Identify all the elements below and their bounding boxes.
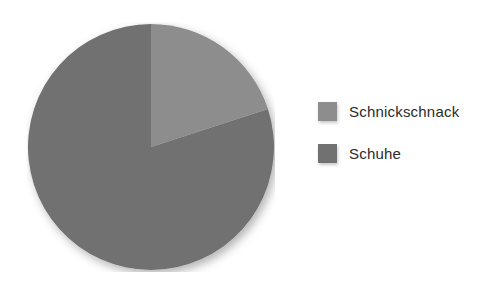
legend-label-schnickschnack: Schnickschnack bbox=[349, 103, 459, 120]
legend-swatch-schuhe bbox=[318, 144, 337, 163]
pie-graphic bbox=[27, 22, 275, 272]
legend-label-schuhe: Schuhe bbox=[349, 145, 401, 162]
pie-chart: Schnickschnack Schuhe bbox=[0, 0, 490, 297]
legend-swatch-schnickschnack bbox=[318, 102, 337, 121]
pie-slices-group bbox=[28, 24, 274, 270]
legend-item-schnickschnack[interactable]: Schnickschnack bbox=[316, 90, 486, 132]
chart-legend: Schnickschnack Schuhe bbox=[316, 90, 486, 174]
legend-item-schuhe[interactable]: Schuhe bbox=[316, 132, 486, 174]
pie-svg bbox=[27, 22, 275, 272]
